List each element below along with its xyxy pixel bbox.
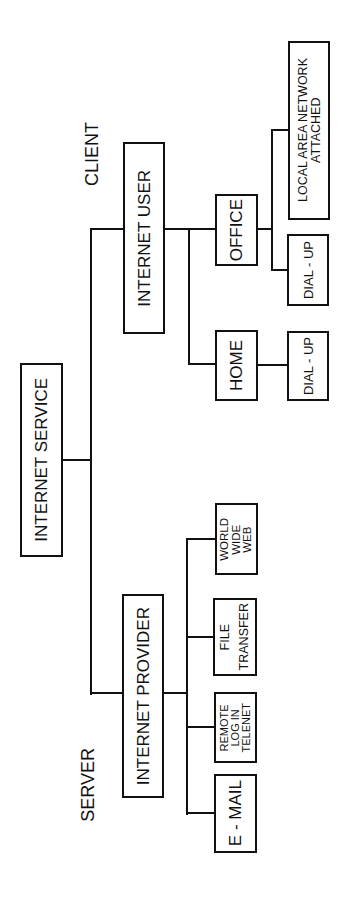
office-node: OFFICE xyxy=(215,194,258,266)
connector-user-stub xyxy=(164,228,216,230)
connector-to-remote-login xyxy=(186,726,215,728)
connector-to-lan xyxy=(271,129,289,131)
connector-office-trunk xyxy=(271,129,273,271)
connector-to-file-transfer xyxy=(186,636,214,638)
connector-to-www xyxy=(186,538,216,540)
connector-to-user xyxy=(90,228,124,230)
connector-root-stub xyxy=(62,459,92,461)
remote-login-telenet-node: REMOTE LOG IN TELENET xyxy=(214,692,257,763)
connector-home-to-dialup xyxy=(257,364,288,366)
file-transfer-node: FILE TRANSFER xyxy=(213,598,257,676)
connector-provider-trunk xyxy=(186,538,188,815)
connector-to-home xyxy=(188,363,216,365)
internet-user-node: INTERNET USER xyxy=(123,142,165,334)
internet-provider-node: INTERNET PROVIDER xyxy=(122,594,164,798)
office-dialup-node: DIAL - UP xyxy=(287,234,329,306)
connector-provider-stub xyxy=(163,692,188,694)
connector-to-email xyxy=(186,812,215,814)
home-dialup-node: DIAL - UP xyxy=(287,331,329,401)
server-label: SERVER xyxy=(76,738,100,832)
email-node: E - MAIL xyxy=(214,774,257,853)
client-label: CLIENT xyxy=(80,112,104,196)
lan-attached-node: LOCAL AREA NETWORK ATTACHED xyxy=(288,41,330,220)
connector-to-provider xyxy=(90,692,123,694)
connector-user-trunk xyxy=(188,228,190,365)
home-node: HOME xyxy=(215,330,258,401)
world-wide-web-node: WORLD WIDE WEB xyxy=(215,503,258,575)
connector-root-trunk xyxy=(90,228,92,695)
internet-service-node: INTERNET SERVICE xyxy=(20,363,63,557)
